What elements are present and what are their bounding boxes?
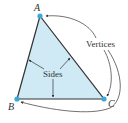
triangle-shape	[17, 16, 104, 99]
triangle-figure: A B C Vertices Sides	[0, 0, 128, 123]
vertex-c-label: C	[108, 98, 115, 109]
vertex-a-label: A	[33, 2, 41, 13]
vertices-caption: Vertices	[86, 39, 115, 49]
vertex-b-label: B	[8, 101, 14, 112]
sides-caption: Sides	[43, 69, 63, 79]
vertex-a-dot	[37, 13, 42, 18]
vertex-b-dot	[14, 96, 19, 101]
triangle-diagram: A B C Vertices Sides	[0, 0, 128, 123]
vertex-c-dot	[101, 96, 106, 101]
